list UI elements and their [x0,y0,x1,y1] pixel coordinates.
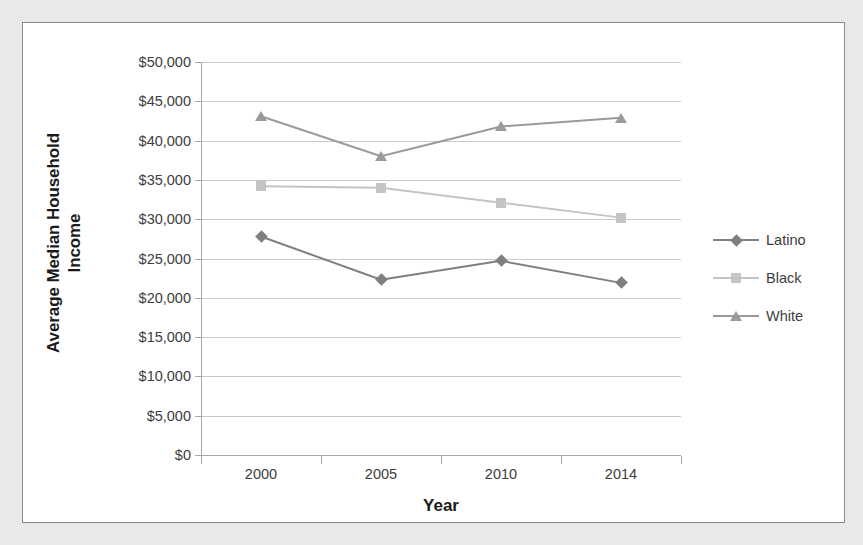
y-axis-tick [195,298,202,299]
x-axis-tick-label: 2005 [336,466,426,482]
x-axis-tick [321,456,322,464]
x-axis-tick-label: 2014 [576,466,666,482]
legend-label: White [766,308,803,324]
chart-panel: Average Median Household Income $50,000$… [22,22,845,523]
data-point-black-2005 [376,183,386,193]
data-point-black-2010 [496,198,506,208]
y-axis-tick-label: $30,000 [41,211,191,227]
y-axis-tick-label: $20,000 [41,290,191,306]
y-axis-tick-label: $35,000 [41,172,191,188]
legend-item-black[interactable]: Black [713,259,838,297]
legend-label: Black [766,270,801,286]
y-axis-tick [195,259,202,260]
plot-area [201,62,681,455]
y-axis-tick [195,62,202,63]
x-axis-tick-label: 2010 [456,466,546,482]
data-point-white-2000 [255,111,267,121]
x-axis-tick-label: 2000 [216,466,306,482]
chart-legend: LatinoBlackWhite [713,221,838,335]
x-axis-tick [201,456,202,464]
x-axis-tick [681,456,682,464]
x-axis-tick [561,456,562,464]
y-axis-tick-label: $15,000 [41,329,191,345]
series-line-black [261,186,621,217]
legend-item-latino[interactable]: Latino [713,221,838,259]
y-axis-tick [195,376,202,377]
legend-label: Latino [766,232,806,248]
legend-swatch-diamond-icon [713,233,759,247]
y-axis-tick-label: $40,000 [41,133,191,149]
legend-item-white[interactable]: White [713,297,838,335]
legend-swatch-square-icon [713,271,759,285]
x-axis-title: Year [201,496,681,516]
y-axis-tick-label: $0 [41,447,191,463]
y-axis-tick [195,455,202,456]
y-axis-tick [195,416,202,417]
data-point-black-2000 [256,181,266,191]
y-axis-tick-labels: $50,000$45,000$40,000$35,000$30,000$25,0… [33,62,191,455]
y-axis-tick-label: $45,000 [41,93,191,109]
y-axis-tick [195,141,202,142]
data-point-black-2014 [616,213,626,223]
y-axis-tick [195,180,202,181]
y-axis-tick-label: $5,000 [41,408,191,424]
y-axis-tick [195,101,202,102]
data-point-white-2014 [615,113,627,123]
y-axis-tick [195,337,202,338]
y-axis-tick [195,219,202,220]
y-axis-tick-label: $50,000 [41,54,191,70]
legend-swatch-triangle-icon [713,309,759,323]
x-axis-tick [441,456,442,464]
data-point-white-2005 [375,151,387,161]
series-lines [201,62,681,455]
series-line-white [261,116,621,156]
y-axis-tick-label: $10,000 [41,368,191,384]
data-point-white-2010 [495,121,507,131]
series-line-latino [261,236,621,282]
y-axis-tick-label: $25,000 [41,251,191,267]
